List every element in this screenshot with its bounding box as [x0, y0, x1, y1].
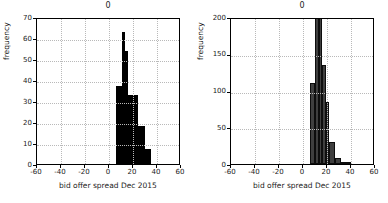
- x-axis-ticks-right: -60-40-200204060: [230, 165, 374, 181]
- gridline-horizontal: [231, 56, 373, 58]
- x-tick-mark: [84, 165, 85, 168]
- y-tick-label: 60: [23, 36, 32, 43]
- x-tick-label: -60: [30, 169, 41, 176]
- x-tick-label: -60: [224, 169, 235, 176]
- y-tick-label: 20: [23, 120, 32, 127]
- gridline-vertical: [279, 19, 281, 164]
- y-axis-ticks-left: 010203040506070: [0, 18, 36, 165]
- gridline-vertical: [351, 19, 353, 164]
- x-tick-label: 0: [106, 169, 110, 176]
- x-tick-mark: [60, 165, 61, 168]
- chart-panel-right: 0 frequency 050100150200 -60-40-20020406…: [194, 0, 388, 203]
- x-tick-mark: [350, 165, 351, 168]
- gridline-horizontal: [37, 124, 179, 126]
- x-tick-label: -40: [248, 169, 259, 176]
- x-tick-mark: [132, 165, 133, 168]
- histogram-bar: [145, 149, 151, 164]
- y-tick-label: 100: [213, 88, 226, 95]
- gridline-horizontal: [37, 145, 179, 147]
- x-tick-mark: [180, 165, 181, 168]
- chart-title-right: 0: [230, 1, 374, 11]
- gridline-horizontal: [37, 82, 179, 84]
- x-tick-label: -20: [78, 169, 89, 176]
- x-tick-mark: [278, 165, 279, 168]
- y-tick-label: 40: [23, 78, 32, 85]
- chart-panel-left: 0 frequency 010203040506070 -60-40-20020…: [0, 0, 194, 203]
- x-tick-label: 40: [152, 169, 161, 176]
- x-tick-mark: [230, 165, 231, 168]
- x-axis-label-left: bid offer spread Dec 2015: [36, 181, 180, 190]
- y-axis-ticks-right: 050100150200: [194, 18, 230, 165]
- x-tick-mark: [254, 165, 255, 168]
- x-axis-ticks-left: -60-40-200204060: [36, 165, 180, 181]
- gridline-horizontal: [231, 129, 373, 131]
- gridline-vertical: [303, 19, 305, 164]
- x-tick-mark: [302, 165, 303, 168]
- y-tick-label: 30: [23, 99, 32, 106]
- x-tick-mark: [156, 165, 157, 168]
- x-tick-mark: [374, 165, 375, 168]
- x-tick-label: 20: [322, 169, 331, 176]
- gridline-vertical: [327, 19, 329, 164]
- y-tick-label: 150: [213, 51, 226, 58]
- y-tick-label: 70: [23, 15, 32, 22]
- x-tick-label: -20: [272, 169, 283, 176]
- y-tick-label: 50: [23, 57, 32, 64]
- y-tick-label: 10: [23, 141, 32, 148]
- y-tick-label: 200: [213, 15, 226, 22]
- x-axis-label-right: bid offer spread Dec 2015: [230, 181, 374, 190]
- x-tick-mark: [108, 165, 109, 168]
- plot-area-left: [36, 18, 180, 165]
- x-tick-label: 60: [176, 169, 185, 176]
- gridline-horizontal: [231, 93, 373, 95]
- plot-area-right: [230, 18, 374, 165]
- y-tick-label: 50: [217, 125, 226, 132]
- chart-title-left: 0: [36, 1, 180, 11]
- x-tick-label: -40: [54, 169, 65, 176]
- x-tick-label: 60: [370, 169, 379, 176]
- x-tick-label: 0: [300, 169, 304, 176]
- x-tick-label: 20: [128, 169, 137, 176]
- x-tick-label: 40: [346, 169, 355, 176]
- gridline-horizontal: [37, 103, 179, 105]
- x-tick-mark: [36, 165, 37, 168]
- figure-container: 0 frequency 010203040506070 -60-40-20020…: [0, 0, 388, 203]
- gridline-vertical: [255, 19, 257, 164]
- x-tick-mark: [326, 165, 327, 168]
- gridline-horizontal: [37, 40, 179, 42]
- gridline-horizontal: [37, 61, 179, 63]
